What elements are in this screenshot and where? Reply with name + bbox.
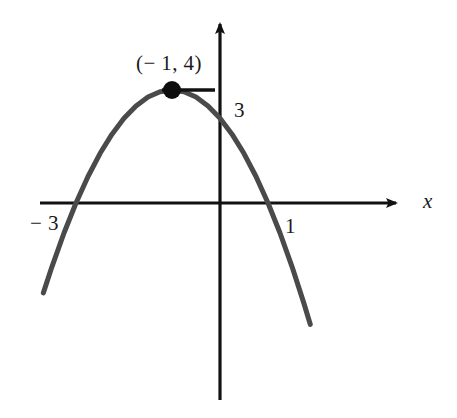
y-intercept-label: 3 bbox=[234, 100, 245, 121]
plot-canvas bbox=[0, 0, 457, 418]
left-root-label: − 3 bbox=[30, 213, 59, 234]
parabola-figure: (− 1, 4) 3 − 3 1 x bbox=[0, 0, 457, 418]
vertex-label: (− 1, 4) bbox=[136, 53, 202, 74]
x-axis-label: x bbox=[423, 191, 432, 212]
right-root-label: 1 bbox=[285, 216, 296, 237]
parabola-curve bbox=[43, 90, 310, 324]
vertex-point-marker bbox=[163, 81, 181, 99]
